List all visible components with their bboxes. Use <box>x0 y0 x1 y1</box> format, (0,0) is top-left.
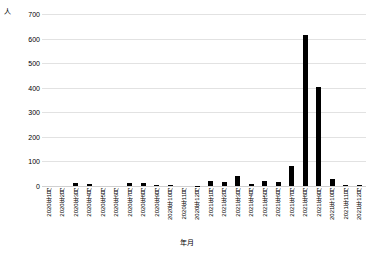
x-axis-tick-label: 2021年4月 <box>248 188 254 217</box>
x-axis-tick-label: 2020年1月 <box>46 188 52 217</box>
x-axis-tick-label: 2021年7月 <box>289 188 295 217</box>
x-axis-tick-label: 2020年12月 <box>194 188 200 220</box>
bar <box>357 185 362 186</box>
bar <box>168 185 173 186</box>
bar <box>262 181 267 186</box>
bar <box>249 184 254 186</box>
bar-slot <box>258 14 272 186</box>
bar-slot <box>123 14 137 186</box>
bar-slot <box>96 14 110 186</box>
x-axis-label-slot: 2021年11月 <box>339 188 353 234</box>
bar <box>222 182 227 186</box>
bar <box>316 87 321 187</box>
bar <box>289 166 294 186</box>
bar-slot <box>326 14 340 186</box>
x-axis-tick-label: 2021年1月 <box>208 188 214 217</box>
bar-slot <box>83 14 97 186</box>
x-axis-title: 年月 <box>0 238 374 247</box>
bar-slot <box>231 14 245 186</box>
x-axis-tick-label: 2021年9月 <box>316 188 322 217</box>
x-axis-label-slot: 2020年10月 <box>164 188 178 234</box>
x-axis-tick-label: 2021年8月 <box>302 188 308 217</box>
plot-area <box>42 14 366 186</box>
x-axis-label-slot: 2021年1月 <box>204 188 218 234</box>
x-axis-label-slot: 2021年7月 <box>285 188 299 234</box>
bar-slot <box>177 14 191 186</box>
x-axis-tick-label: 2021年12月 <box>356 188 362 220</box>
bar-slot <box>204 14 218 186</box>
bar <box>303 35 308 186</box>
y-axis-tick-label: 400 <box>2 84 40 91</box>
bar-slot <box>245 14 259 186</box>
bar <box>87 184 92 186</box>
y-axis-tick-label: 600 <box>2 35 40 42</box>
bar-slot <box>69 14 83 186</box>
bar <box>127 183 132 186</box>
x-axis-label-slot: 2020年11月 <box>177 188 191 234</box>
x-axis-label-slot: 2020年3月 <box>69 188 83 234</box>
y-axis-tick-label: 300 <box>2 109 40 116</box>
x-axis-tick-label: 2021年6月 <box>275 188 281 217</box>
x-axis-tick-label: 2020年6月 <box>113 188 119 217</box>
bar-slot <box>339 14 353 186</box>
bar-slot <box>150 14 164 186</box>
x-axis-label-slot: 2021年10月 <box>326 188 340 234</box>
x-axis-label-slot: 2021年4月 <box>245 188 259 234</box>
x-axis-label-slot: 2021年12月 <box>353 188 367 234</box>
y-axis-tick-label: 200 <box>2 133 40 140</box>
x-axis-tick-label: 2020年5月 <box>100 188 106 217</box>
x-axis-tick-label: 2021年10月 <box>329 188 335 220</box>
bar-slot <box>218 14 232 186</box>
x-axis-tick-labels: 2020年1月2020年2月2020年3月2020年4月2020年5月2020年… <box>42 188 366 234</box>
bar-slot <box>164 14 178 186</box>
x-axis-label-slot: 2020年8月 <box>137 188 151 234</box>
y-axis-tick-label: 700 <box>2 11 40 18</box>
bar-slot <box>42 14 56 186</box>
bar-slot <box>137 14 151 186</box>
bar-slot <box>56 14 70 186</box>
x-axis-tick-label: 2020年4月 <box>86 188 92 217</box>
bar <box>276 182 281 186</box>
bar-slot <box>312 14 326 186</box>
x-axis-tick-label: 2021年11月 <box>343 188 349 220</box>
x-axis-label-slot: 2020年5月 <box>96 188 110 234</box>
x-axis-tick-label: 2020年8月 <box>140 188 146 217</box>
bar <box>73 183 78 186</box>
x-axis-label-slot: 2020年1月 <box>42 188 56 234</box>
x-axis-label-slot: 2021年5月 <box>258 188 272 234</box>
bar-slot <box>299 14 313 186</box>
bar-series <box>42 14 366 186</box>
bar-slot <box>285 14 299 186</box>
x-axis-label-slot: 2020年7月 <box>123 188 137 234</box>
x-axis-tick-label: 2020年7月 <box>127 188 133 217</box>
bar-slot <box>110 14 124 186</box>
bar <box>343 185 348 186</box>
x-axis-label-slot: 2021年3月 <box>231 188 245 234</box>
bar-chart: 人 0100200300400500600700 2020年1月2020年2月2… <box>0 0 374 258</box>
x-axis-label-slot: 2020年6月 <box>110 188 124 234</box>
x-axis-label-slot: 2021年6月 <box>272 188 286 234</box>
x-axis-tick-label: 2020年9月 <box>154 188 160 217</box>
bar-slot <box>272 14 286 186</box>
x-axis-tick-label: 2021年3月 <box>235 188 241 217</box>
x-axis-label-slot: 2020年12月 <box>191 188 205 234</box>
bar <box>141 183 146 186</box>
bar <box>235 176 240 186</box>
x-axis-label-slot: 2021年8月 <box>299 188 313 234</box>
y-axis-tick-label: 500 <box>2 60 40 67</box>
x-axis-label-slot: 2021年2月 <box>218 188 232 234</box>
x-axis-label-slot: 2020年2月 <box>56 188 70 234</box>
x-axis-label-slot: 2020年9月 <box>150 188 164 234</box>
y-axis-tick-label: 100 <box>2 158 40 165</box>
bar <box>330 179 335 186</box>
x-axis-tick-label: 2020年11月 <box>181 188 187 220</box>
y-axis-tick-labels: 0100200300400500600700 <box>0 14 40 186</box>
bar-slot <box>353 14 367 186</box>
x-axis-label-slot: 2021年9月 <box>312 188 326 234</box>
bar <box>154 185 159 186</box>
y-axis-tick-label: 0 <box>2 183 40 190</box>
x-axis-tick-label: 2021年2月 <box>221 188 227 217</box>
x-axis-tick-label: 2020年3月 <box>73 188 79 217</box>
bar-slot <box>191 14 205 186</box>
x-axis-tick-label: 2020年2月 <box>59 188 65 217</box>
